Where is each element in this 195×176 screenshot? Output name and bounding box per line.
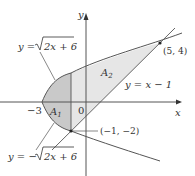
lower-curve-label-lhs: y = − [7,151,37,162]
x-axis-arrow-icon [176,100,182,105]
leader-lower [36,123,54,150]
point-5-4-label: (5, 4) [163,46,187,56]
lower-curve-label-rad: 2x + 6 [43,151,78,162]
y-axis-label: y [77,9,84,20]
point-neg1-neg2-label: (−1, −2) [100,126,139,136]
point-5-4 [158,41,161,44]
upper-curve-label-lhs: y = [17,41,35,52]
x-axis-label: x [175,107,181,118]
x-tick-neg3: −3 [27,105,42,116]
leader-upper [40,52,55,80]
upper-curve-label-rad: 2x + 6 [43,41,78,52]
origin-label: 0 [78,105,84,116]
line-label: y = x − 1 [124,79,172,90]
y-axis-arrow-icon [84,13,89,20]
area-between-curves-diagram: y x 0 −3 y = 2x + 6 y = − 2x + 6 y = x −… [0,0,195,176]
